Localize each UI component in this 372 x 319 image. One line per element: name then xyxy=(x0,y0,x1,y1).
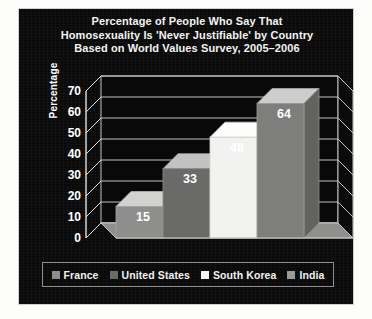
legend-item-france[interactable]: France xyxy=(52,269,99,281)
legend-item-united-states[interactable]: United States xyxy=(110,269,190,281)
legend-item-india[interactable]: India xyxy=(287,269,324,281)
y-tick-label: 70 xyxy=(68,84,82,98)
y-axis xyxy=(86,76,101,238)
chart-panel: Percentage of People Who Say That Homose… xyxy=(18,8,354,305)
y-tick-label: 30 xyxy=(68,168,82,182)
y-tick-label: 50 xyxy=(68,126,82,140)
plot-area: 70 60 50 40 30 20 10 0 15 xyxy=(19,63,354,258)
legend-label: India xyxy=(299,269,324,281)
legend-label: United States xyxy=(122,269,190,281)
y-tick-label: 0 xyxy=(74,231,81,245)
bar-value-label: 33 xyxy=(183,172,197,186)
y-tick-label: 60 xyxy=(68,105,82,119)
right-side-wall xyxy=(338,76,353,238)
y-tick-label: 10 xyxy=(68,210,82,224)
y-tick-label: 40 xyxy=(68,147,82,161)
legend-label: France xyxy=(64,269,99,281)
legend-swatch-icon xyxy=(110,271,118,279)
y-tick-labels: 70 60 50 40 30 20 10 0 xyxy=(68,84,82,245)
chart-title-line-3: Based on World Values Survey, 2005–2006 xyxy=(25,42,349,56)
legend-swatch-icon xyxy=(52,271,60,279)
bar-value-label: 48 xyxy=(230,141,244,155)
y-tick-label: 20 xyxy=(68,189,82,203)
page-canvas: Percentage of People Who Say That Homose… xyxy=(0,0,372,319)
bar-value-label: 64 xyxy=(277,107,291,121)
chart-legend: France United States South Korea India xyxy=(42,262,334,287)
legend-swatch-icon xyxy=(201,271,209,279)
legend-item-south-korea[interactable]: South Korea xyxy=(201,269,277,281)
bar-india[interactable]: 64 xyxy=(257,89,319,238)
chart-title-line-2: Homosexuality Is 'Never Justifiable' by … xyxy=(25,29,349,43)
chart-title: Percentage of People Who Say That Homose… xyxy=(25,15,349,56)
legend-swatch-icon xyxy=(287,271,295,279)
y-axis-title: Percentage xyxy=(48,51,59,131)
bar-value-label: 15 xyxy=(136,210,150,224)
chart-title-line-1: Percentage of People Who Say That xyxy=(25,15,349,29)
legend-label: South Korea xyxy=(213,269,277,281)
